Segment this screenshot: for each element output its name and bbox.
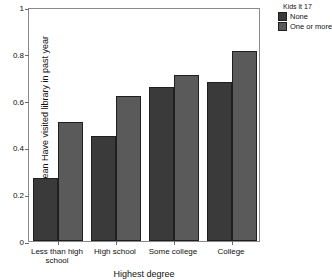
- y-tick-label: 0.2: [13, 190, 24, 201]
- bars-layer: [29, 9, 259, 241]
- legend-entries: NoneOne or more: [278, 12, 332, 31]
- x-axis-category-label: Less than high school: [28, 247, 86, 265]
- y-tick-mark: [25, 243, 29, 244]
- x-tick-mark: [174, 241, 175, 245]
- bar: [58, 122, 83, 241]
- bar: [116, 96, 141, 241]
- y-tick-label: 0.8: [13, 50, 24, 61]
- x-axis-category-label: College: [202, 247, 260, 256]
- bar: [91, 136, 116, 241]
- x-tick-mark: [116, 241, 117, 245]
- y-tick-label: 1: [20, 3, 24, 14]
- bar: [33, 178, 58, 241]
- x-axis-category-label: High school: [86, 247, 144, 256]
- bar: [149, 87, 174, 241]
- legend-swatch: [278, 12, 287, 21]
- bar: [207, 82, 232, 241]
- bar: [174, 75, 199, 241]
- x-axis-title: Highest degree: [28, 269, 260, 279]
- legend-label: None: [290, 12, 308, 21]
- x-tick-mark: [58, 241, 59, 245]
- legend: Kids lt 17 NoneOne or more: [278, 3, 332, 32]
- y-tick-label: 0.6: [13, 97, 24, 108]
- y-tick-label: 0: [20, 237, 24, 248]
- legend-entry[interactable]: One or more: [278, 22, 332, 31]
- legend-swatch: [278, 22, 287, 31]
- x-tick-mark: [232, 241, 233, 245]
- legend-title: Kids lt 17: [283, 3, 332, 10]
- legend-entry[interactable]: None: [278, 12, 332, 21]
- chart-root: Mean Have visited library in past year 0…: [0, 0, 332, 280]
- y-tick-label: 0.4: [13, 143, 24, 154]
- bar: [232, 51, 257, 241]
- legend-label: One or more: [290, 22, 332, 31]
- x-axis-category-label: Some college: [144, 247, 202, 256]
- plot-area: Mean Have visited library in past year 0…: [28, 8, 260, 242]
